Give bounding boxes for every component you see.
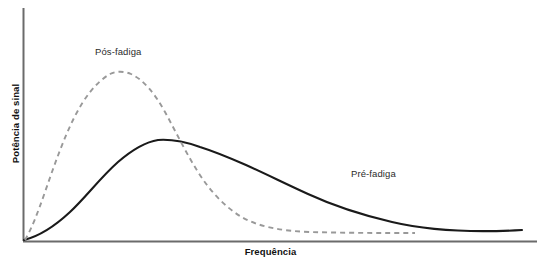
chart-plot-area [0,0,541,267]
signal-power-frequency-chart: Pós-fadiga Pré-fadiga Frequência Potênci… [0,0,541,267]
series-label-pos-fadiga: Pós-fadiga [95,46,141,57]
y-axis-title: Potência de sinal [10,64,21,184]
x-axis-title: Frequência [0,246,541,257]
curve-pre-fadiga [24,140,522,240]
curve-pos-fadiga [25,72,415,240]
series-label-pre-fadiga: Pré-fadiga [351,168,396,179]
